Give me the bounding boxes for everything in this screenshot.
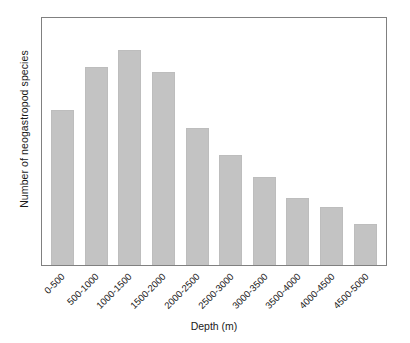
bar-0-500 [51,110,74,265]
bar-slot [147,18,181,265]
bar-4500-5000 [354,224,377,265]
bar-slot [180,18,214,265]
bar-1500-2000 [152,72,175,265]
x-axis-tick-labels: 0-500 500-1000 1000-1500 1500-2000 2000-… [41,268,387,318]
y-axis-title: Number of neogastropod species [18,9,30,249]
bar-chart-figure: Number of neogastropod species [0,0,410,343]
bar-2500-3000 [219,155,242,265]
bar-slot [46,18,80,265]
bar-3000-3500 [253,177,276,265]
bar-slot [80,18,114,265]
bar-series [42,18,386,265]
bar-slot [315,18,349,265]
bar-2000-2500 [186,128,209,265]
bar-slot [113,18,147,265]
bar-slot [281,18,315,265]
bar-500-1000 [85,67,108,265]
bar-slot [348,18,382,265]
bar-slot [248,18,282,265]
tick-slot: 4500-5000 [349,268,383,318]
bar-4000-4500 [320,207,343,265]
bar-slot [214,18,248,265]
x-axis-title: Depth (m) [41,320,387,332]
bar-1000-1500 [118,50,141,265]
plot-area [41,17,387,266]
bar-3500-4000 [286,198,309,265]
x-tick-label: 0-500 [42,271,67,296]
